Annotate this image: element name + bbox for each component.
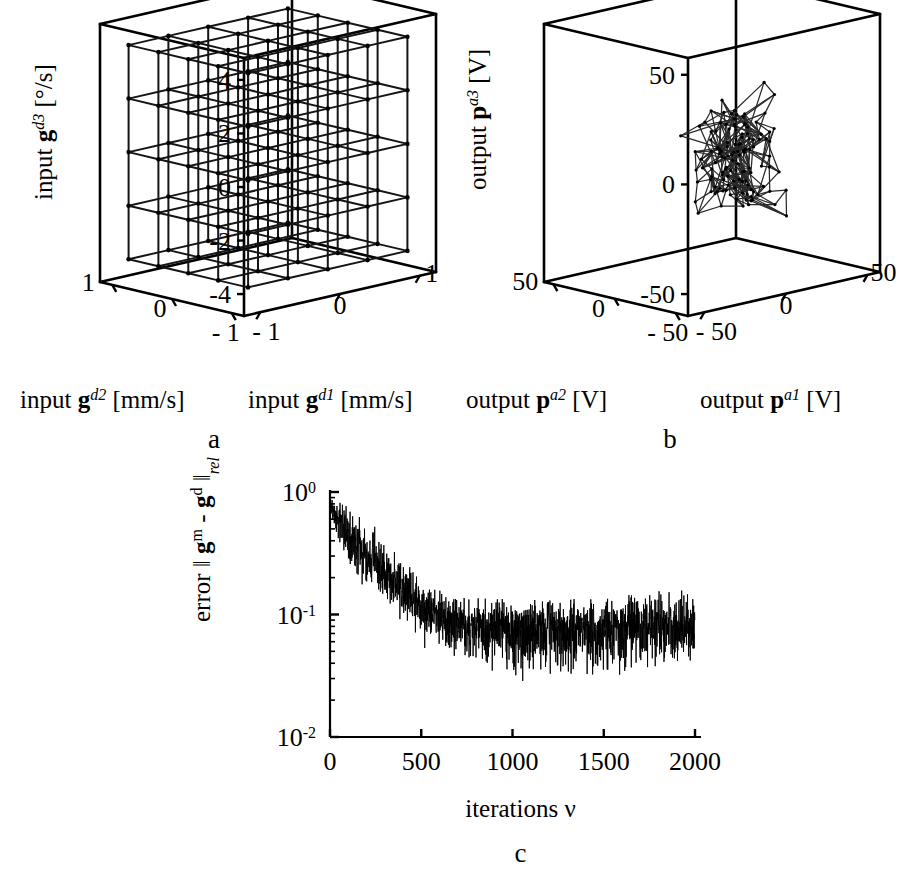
- lattice-node: [206, 132, 211, 137]
- panel-a-x-axis-title: input gd1 [mm/s]: [248, 386, 413, 414]
- lattice-node: [226, 262, 231, 267]
- lattice-node: [335, 251, 340, 256]
- mesh-node: [725, 123, 728, 126]
- lattice-edge: [188, 264, 228, 273]
- lattice-edge: [158, 106, 188, 113]
- mesh-node: [724, 168, 727, 171]
- mesh-node: [716, 190, 719, 193]
- lattice-node: [335, 197, 340, 202]
- mesh-node: [694, 150, 697, 153]
- mesh-node: [703, 120, 706, 123]
- x-tick-label: 500: [402, 747, 441, 776]
- lattice-edge: [338, 146, 368, 153]
- lattice-edge: [338, 244, 378, 253]
- lattice-edge: [378, 137, 408, 144]
- lattice-node: [166, 248, 171, 253]
- lattice-node: [405, 195, 410, 200]
- mesh-node: [746, 125, 749, 128]
- mesh-node: [726, 145, 729, 148]
- panel-a-input-lattice: 420-2-410- 1- 101input gd3 [°/s]input gd…: [0, 10, 460, 450]
- lattice-node: [126, 43, 131, 48]
- lattice-edge: [198, 34, 238, 43]
- mesh-node: [778, 170, 781, 173]
- mesh-node: [714, 185, 717, 188]
- lattice-node: [186, 110, 191, 115]
- lattice-edge: [308, 192, 338, 199]
- mesh-node: [700, 158, 703, 161]
- mesh-node: [695, 168, 698, 171]
- lattice-edge: [368, 144, 408, 153]
- lattice-node: [306, 244, 311, 249]
- x-tick-label: 0: [334, 291, 347, 320]
- lattice-node: [296, 46, 301, 51]
- figure-root: 420-2-410- 1- 101input gd3 [°/s]input gd…: [0, 0, 919, 872]
- lattice-edge: [129, 36, 169, 45]
- mesh-node: [694, 200, 697, 203]
- mesh-node: [744, 148, 747, 151]
- mesh-node: [738, 153, 741, 156]
- y-tick-label: 10-1: [277, 601, 316, 630]
- lattice-node: [126, 96, 131, 101]
- lattice-node: [306, 30, 311, 35]
- lattice-edge: [268, 41, 298, 48]
- mesh-node: [740, 136, 743, 139]
- lattice-edge: [158, 150, 198, 159]
- mesh-node: [742, 116, 745, 119]
- lattice-node: [156, 210, 161, 215]
- mesh-node: [728, 127, 731, 130]
- x-tick-label: 50: [871, 258, 897, 287]
- z-tick-label: -50: [640, 280, 675, 309]
- panel-a-z-axis-title: input gd3 [°/s]: [30, 64, 58, 200]
- mesh-node: [730, 112, 733, 115]
- lattice-edge: [298, 102, 328, 109]
- mesh-edge: [764, 82, 774, 94]
- panel-b-letter: b: [663, 424, 677, 454]
- panel-a-letter: a: [208, 424, 220, 454]
- z-tick-label: 50: [649, 61, 675, 90]
- lattice-node: [286, 113, 291, 118]
- lattice-node: [345, 181, 350, 186]
- lattice-edge: [129, 152, 159, 159]
- lattice-node: [276, 76, 281, 81]
- lattice-node: [335, 90, 340, 95]
- panel-b-z-ticks: 500-50: [640, 61, 688, 309]
- axis-box-top-back-right: [736, 0, 880, 14]
- x-tick-label: 1: [425, 259, 438, 288]
- mesh-node: [722, 111, 725, 114]
- mesh-node: [709, 138, 712, 141]
- lattice-node: [276, 237, 281, 242]
- mesh-node: [710, 109, 713, 112]
- lattice-edge: [318, 123, 348, 130]
- mesh-node: [738, 178, 741, 181]
- lattice-node: [326, 160, 331, 165]
- lattice-node: [316, 228, 321, 233]
- lattice-edge: [268, 202, 298, 209]
- axis-box-floor-back-left: [544, 238, 736, 282]
- lattice-node: [166, 87, 171, 92]
- lattice-edge: [158, 204, 198, 213]
- lattice-edge: [158, 97, 198, 106]
- axis-box-top-back-right: [292, 0, 436, 14]
- lattice-node: [266, 199, 271, 204]
- mesh-node: [749, 171, 752, 174]
- mesh-node: [725, 189, 728, 192]
- lattice-node: [186, 271, 191, 276]
- z-tick-label: 0: [218, 173, 231, 202]
- z-tick-label: 0: [662, 170, 675, 199]
- mesh-node: [768, 155, 771, 158]
- mesh-node: [768, 165, 771, 168]
- mesh-node: [727, 155, 730, 158]
- panel-b-z-axis-title: output pa3 [V]: [464, 49, 492, 190]
- lattice-edge: [238, 195, 268, 202]
- lattice-edge: [378, 83, 408, 90]
- mesh-node: [721, 171, 724, 174]
- lattice-node: [375, 188, 380, 193]
- lattice-edge: [129, 259, 159, 266]
- mesh-node: [748, 148, 751, 151]
- mesh-node: [731, 159, 734, 162]
- lattice-node: [196, 41, 201, 46]
- lattice-node: [246, 230, 251, 235]
- panel-a-y-axis-title: input gd2 [mm/s]: [20, 386, 185, 414]
- lattice-edge: [158, 159, 188, 166]
- lattice-edge: [238, 141, 268, 148]
